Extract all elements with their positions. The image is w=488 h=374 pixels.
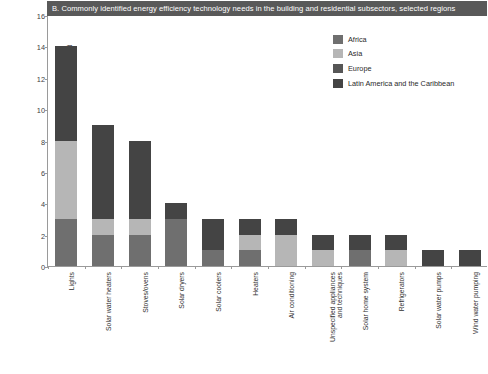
bar-column xyxy=(129,141,151,267)
bar-column xyxy=(275,219,297,266)
x-tick-label: Refrigerators xyxy=(398,272,406,311)
bar-segment xyxy=(165,203,187,219)
legend-swatch-icon xyxy=(333,35,343,44)
legend-item: Asia xyxy=(333,47,485,62)
bar-segment xyxy=(239,235,261,251)
chart-legend: AfricaAsiaEuropeLatin America and the Ca… xyxy=(333,32,485,90)
legend-swatch-icon xyxy=(333,49,343,58)
bar-segment xyxy=(129,141,151,219)
bar-column xyxy=(92,125,114,266)
x-tick-mark xyxy=(195,266,196,269)
bar-column xyxy=(55,46,77,266)
x-tick-mark xyxy=(231,266,232,269)
x-tick-mark xyxy=(158,266,159,269)
x-tick-label: Wind water pumping xyxy=(472,272,480,334)
x-tick-label: Solar home system xyxy=(362,272,370,330)
bar-segment xyxy=(422,250,444,266)
bar-segment xyxy=(92,235,114,266)
x-tick-mark xyxy=(48,266,49,269)
bar-column xyxy=(459,250,481,266)
bar-segment xyxy=(129,219,151,235)
x-tick-label: Solar water pumps xyxy=(435,272,443,329)
x-tick-label: Heaters xyxy=(252,272,260,296)
x-tick-label: Solar coolers xyxy=(215,272,223,312)
y-tick-label-10: 10 xyxy=(37,106,45,115)
bar-segment xyxy=(202,250,224,266)
x-tick-mark xyxy=(341,266,342,269)
bar-column xyxy=(239,219,261,266)
y-tick-label-14: 14 xyxy=(37,43,45,52)
x-tick-label: Air conditioning xyxy=(288,272,296,318)
legend-label: Latin America and the Caribbean xyxy=(348,79,454,88)
bar-segment xyxy=(92,219,114,235)
x-tick-label: Unspecified appliancesand techniques xyxy=(329,272,344,342)
x-tick-label: Solar water heaters xyxy=(105,272,113,331)
bar-segment xyxy=(385,235,407,251)
bar-column xyxy=(422,250,444,266)
legend-item: Africa xyxy=(333,32,485,47)
bar-column xyxy=(202,219,224,266)
bar-segment xyxy=(459,250,481,266)
legend-label: Europe xyxy=(348,64,372,73)
bar-segment xyxy=(55,219,77,266)
legend-label: Africa xyxy=(348,35,367,44)
x-tick-label: Solar dryers xyxy=(178,272,186,309)
chart-title: B. Commonly identified energy efficiency… xyxy=(47,1,487,16)
legend-swatch-icon xyxy=(333,79,343,88)
legend-label: Asia xyxy=(348,49,362,58)
x-tick-mark xyxy=(268,266,269,269)
bar-segment xyxy=(55,141,77,219)
x-tick-mark xyxy=(415,266,416,269)
bar-segment xyxy=(55,46,77,140)
x-tick-mark xyxy=(121,266,122,269)
bar-column xyxy=(349,235,371,266)
bar-segment xyxy=(312,250,334,266)
y-tick-label-12: 12 xyxy=(37,74,45,83)
bar-segment xyxy=(92,125,114,219)
x-tick-mark xyxy=(85,266,86,269)
chart-figure: B. Commonly identified energy efficiency… xyxy=(0,0,488,374)
legend-swatch-icon xyxy=(333,64,343,73)
bar-segment xyxy=(385,250,407,266)
bar-column xyxy=(165,203,187,266)
bar-segment xyxy=(349,235,371,251)
bar-segment xyxy=(275,235,297,266)
bar-segment xyxy=(165,219,187,266)
bar-segment xyxy=(312,235,334,251)
legend-item: Latin America and the Caribbean xyxy=(333,76,485,91)
bar-segment xyxy=(129,235,151,266)
x-tick-mark xyxy=(451,266,452,269)
x-tick-mark xyxy=(305,266,306,269)
x-tick-mark xyxy=(378,266,379,269)
bar-segment xyxy=(239,219,261,235)
bar-column xyxy=(312,235,334,266)
bar-segment xyxy=(239,250,261,266)
x-tick-label: Stoves/ovens xyxy=(142,272,150,313)
y-tick-label-16: 16 xyxy=(37,12,45,21)
bar-segment xyxy=(275,219,297,235)
legend-item: Europe xyxy=(333,61,485,76)
bar-segment xyxy=(349,250,371,266)
bar-column xyxy=(385,235,407,266)
x-tick-label: Lights xyxy=(68,272,76,290)
bar-segment xyxy=(202,219,224,250)
